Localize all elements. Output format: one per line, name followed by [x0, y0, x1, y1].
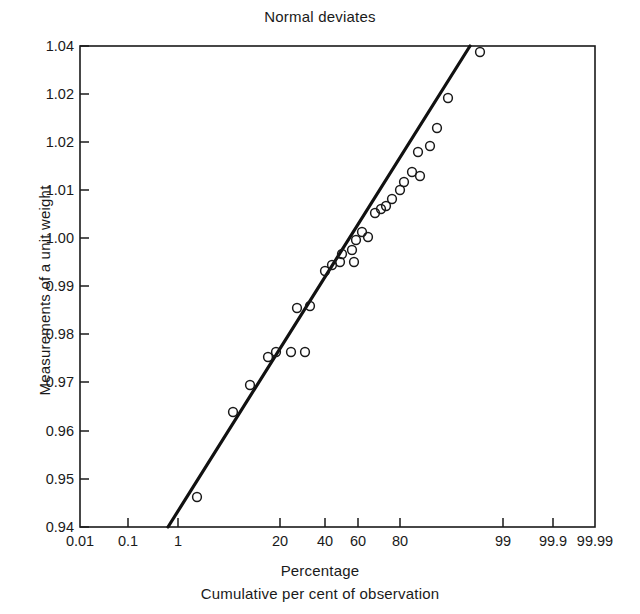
data-point-group — [193, 48, 485, 502]
x-tick-label-group: 0.010.11204060809999.999.99 — [66, 533, 613, 549]
data-point — [414, 148, 423, 157]
y-axis-tick-label: 1.04 — [46, 38, 74, 54]
data-point — [229, 408, 238, 417]
data-point — [193, 493, 202, 502]
x-axis-tick-label: 99.9 — [539, 533, 567, 549]
x-axis-title-primary: Percentage — [0, 562, 640, 579]
x-axis-tick-label: 80 — [392, 533, 408, 549]
plot-frame — [80, 46, 595, 527]
normal-probability-plot: Normal deviates Measurements of a unit w… — [0, 0, 640, 614]
x-axis-tick-label: 0.01 — [66, 533, 94, 549]
data-point — [246, 381, 255, 390]
x-axis-tick-label: 60 — [350, 533, 366, 549]
data-point — [301, 348, 310, 357]
data-point — [400, 178, 409, 187]
x-tick-group — [128, 518, 553, 527]
y-axis-tick-label: 0.95 — [46, 471, 74, 487]
x-axis-tick-label: 1 — [174, 533, 182, 549]
x-axis-tick-label: 40 — [317, 533, 333, 549]
data-point — [293, 304, 302, 313]
data-point — [476, 48, 485, 57]
x-axis-tick-label: 99.99 — [577, 533, 613, 549]
data-point — [416, 172, 425, 181]
data-point — [444, 94, 453, 103]
data-point — [348, 246, 357, 255]
data-point — [352, 236, 361, 245]
data-point — [433, 124, 442, 133]
y-axis-title: Measurements of a unit weight — [36, 151, 53, 431]
plot-canvas: 1.041.021.021.011.000.990.980.970.960.95… — [0, 0, 640, 614]
x-axis-tick-label: 99 — [495, 533, 511, 549]
chart-title: Normal deviates — [0, 8, 640, 25]
data-point — [264, 353, 273, 362]
data-point — [364, 233, 373, 242]
x-axis-tick-label: 0.1 — [118, 533, 138, 549]
data-point — [350, 258, 359, 267]
x-axis-tick-label: 20 — [272, 533, 288, 549]
data-point — [358, 228, 367, 237]
y-axis-tick-label: 1.02 — [46, 134, 74, 150]
fit-line — [168, 46, 470, 527]
y-tick-group — [80, 46, 89, 527]
data-point — [287, 348, 296, 357]
y-axis-tick-label: 1.02 — [46, 86, 74, 102]
data-point — [388, 195, 397, 204]
x-axis-title-secondary: Cumulative per cent of observation — [0, 585, 640, 602]
data-point — [426, 142, 435, 151]
